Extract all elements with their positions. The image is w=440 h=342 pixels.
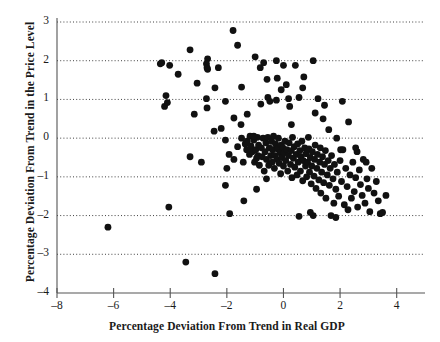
data-point bbox=[354, 204, 361, 211]
data-point bbox=[326, 182, 333, 189]
data-point bbox=[365, 185, 372, 192]
data-point bbox=[191, 111, 198, 118]
data-point bbox=[325, 126, 332, 133]
data-point bbox=[297, 168, 304, 175]
data-point bbox=[261, 168, 268, 175]
data-point bbox=[273, 97, 280, 104]
data-point bbox=[222, 137, 229, 144]
data-point bbox=[349, 159, 356, 166]
data-point bbox=[164, 99, 171, 106]
data-point bbox=[274, 75, 281, 82]
data-point bbox=[296, 94, 303, 101]
data-point bbox=[238, 121, 245, 128]
data-point bbox=[166, 62, 173, 69]
data-point bbox=[182, 259, 189, 266]
data-point bbox=[277, 170, 284, 177]
data-point bbox=[222, 182, 229, 189]
data-point bbox=[368, 165, 375, 172]
data-point bbox=[283, 81, 290, 88]
scatter-plot-figure: Percentage Deviation From Trend in the P… bbox=[0, 0, 440, 342]
data-point bbox=[212, 84, 219, 91]
data-point bbox=[158, 59, 165, 66]
data-point bbox=[337, 146, 344, 153]
data-point bbox=[333, 135, 340, 142]
data-point bbox=[271, 165, 278, 172]
data-point bbox=[204, 105, 211, 112]
data-point bbox=[253, 186, 260, 193]
data-point bbox=[226, 210, 233, 217]
data-point bbox=[238, 84, 245, 91]
data-point bbox=[373, 178, 380, 185]
data-point bbox=[218, 125, 225, 132]
data-point bbox=[338, 178, 345, 185]
data-point bbox=[331, 161, 338, 168]
data-point bbox=[256, 162, 263, 169]
plot-canvas bbox=[0, 0, 440, 342]
data-point bbox=[356, 166, 363, 173]
data-point bbox=[335, 193, 342, 200]
data-point bbox=[250, 133, 257, 140]
data-point bbox=[299, 84, 306, 91]
data-point bbox=[163, 92, 170, 99]
data-point bbox=[231, 156, 238, 163]
data-point bbox=[315, 95, 322, 102]
data-point bbox=[375, 197, 382, 204]
data-points bbox=[105, 27, 390, 277]
data-point bbox=[348, 195, 355, 202]
data-point bbox=[187, 153, 194, 160]
data-point bbox=[364, 175, 371, 182]
data-point bbox=[175, 71, 182, 78]
data-point bbox=[284, 168, 291, 175]
data-point bbox=[257, 101, 264, 108]
data-point bbox=[363, 159, 370, 166]
data-point bbox=[298, 138, 305, 145]
data-point bbox=[252, 53, 259, 60]
data-point bbox=[324, 172, 331, 179]
data-point bbox=[223, 165, 230, 172]
data-point bbox=[317, 190, 324, 197]
data-point bbox=[286, 103, 293, 110]
data-point bbox=[359, 192, 366, 199]
data-point bbox=[215, 64, 222, 71]
data-point bbox=[212, 270, 219, 277]
data-point bbox=[260, 59, 267, 66]
data-point bbox=[285, 95, 292, 102]
data-point bbox=[280, 62, 287, 69]
data-point bbox=[330, 175, 337, 182]
data-point bbox=[165, 204, 172, 211]
data-point bbox=[226, 151, 233, 158]
data-point bbox=[322, 147, 329, 154]
data-point bbox=[105, 224, 112, 231]
data-point bbox=[328, 152, 335, 159]
data-point bbox=[351, 188, 358, 195]
data-point bbox=[204, 66, 211, 73]
data-point bbox=[362, 200, 369, 207]
data-point bbox=[345, 206, 352, 213]
data-point bbox=[222, 98, 229, 105]
data-point bbox=[300, 74, 307, 81]
data-point bbox=[240, 159, 247, 166]
data-point bbox=[357, 181, 364, 188]
data-point bbox=[263, 175, 270, 182]
data-point bbox=[240, 197, 247, 204]
data-point bbox=[352, 174, 359, 181]
data-point bbox=[273, 57, 280, 64]
data-point bbox=[312, 110, 319, 117]
data-point bbox=[305, 134, 312, 141]
data-point bbox=[264, 94, 271, 101]
data-point bbox=[342, 165, 349, 172]
data-point bbox=[296, 213, 303, 220]
data-point bbox=[244, 111, 251, 118]
data-point bbox=[371, 190, 378, 197]
data-point bbox=[292, 62, 299, 69]
data-point bbox=[203, 95, 210, 102]
data-point bbox=[234, 143, 241, 150]
data-point bbox=[323, 195, 330, 202]
data-point bbox=[307, 209, 314, 216]
data-point bbox=[278, 86, 285, 93]
data-point bbox=[352, 144, 359, 151]
data-point bbox=[289, 134, 296, 141]
data-point bbox=[337, 157, 344, 164]
data-point bbox=[187, 46, 194, 53]
data-point bbox=[379, 209, 386, 216]
